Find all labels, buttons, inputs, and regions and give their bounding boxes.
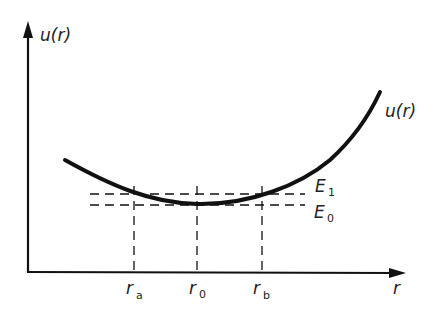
tick-label-r0: r [189,278,197,298]
tick-sub-rb: b [263,289,270,302]
x-axis-label: r [393,278,401,298]
energy-label-e1: E [315,176,326,196]
tick-sub-ra: a [136,289,143,302]
x-axis [27,272,396,273]
tick-sub-r0: 0 [199,288,206,301]
curve-label: u(r) [385,101,416,121]
tick-label-rb: r [253,278,261,298]
energy-sub-e1: 1 [328,186,335,199]
x-axis-arrow-icon [389,268,406,278]
diagram-svg: u(r) u(r) E 1 E 0 r a r 0 r b r [0,0,441,313]
y-axis-label: u(r) [40,25,71,45]
y-axis-arrow-icon [23,21,33,38]
energy-sub-e0: 0 [327,212,334,225]
potential-diagram: u(r) u(r) E 1 E 0 r a r 0 r b r [0,0,441,313]
tick-label-ra: r [126,278,134,298]
energy-label-e0: E [314,202,325,222]
